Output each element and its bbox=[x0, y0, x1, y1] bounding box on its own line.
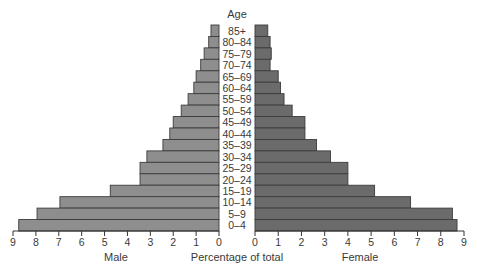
male-bar-40–44 bbox=[170, 128, 219, 139]
female-bar-60–64 bbox=[255, 82, 281, 93]
chart-title: Age bbox=[227, 8, 247, 20]
female-tick-label: 2 bbox=[299, 236, 305, 248]
male-bar-80–84 bbox=[209, 36, 219, 47]
male-tick-label: 9 bbox=[10, 236, 16, 248]
age-label: 45–49 bbox=[222, 116, 251, 128]
female-tick-label: 4 bbox=[345, 236, 351, 248]
male-bar-20–24 bbox=[140, 174, 219, 185]
age-label: 10–14 bbox=[222, 196, 251, 208]
female-bar-15–19 bbox=[255, 185, 375, 196]
female-bar-65–69 bbox=[255, 71, 278, 82]
male-tick-label: 8 bbox=[33, 236, 39, 248]
female-bar-35–39 bbox=[255, 139, 317, 150]
male-tick-label: 7 bbox=[56, 236, 62, 248]
male-tick-label: 0 bbox=[216, 236, 222, 248]
female-bar-25–29 bbox=[255, 162, 348, 173]
age-group-labels: 85+80–8475–7970–7465–6960–6455–5950–5445… bbox=[222, 25, 251, 232]
female-bar-0–4 bbox=[255, 220, 457, 231]
female-axis-label: Female bbox=[342, 251, 379, 263]
age-label: 55–59 bbox=[222, 93, 251, 105]
age-label: 40–44 bbox=[222, 128, 251, 140]
male-tick-label: 2 bbox=[170, 236, 176, 248]
female-bar-50–54 bbox=[255, 105, 292, 116]
female-tick-label: 9 bbox=[461, 236, 467, 248]
male-bars bbox=[19, 25, 219, 231]
male-tick-label: 5 bbox=[102, 236, 108, 248]
female-bar-55–59 bbox=[255, 94, 284, 105]
age-label: 85+ bbox=[228, 25, 246, 37]
female-tick-label: 3 bbox=[322, 236, 328, 248]
age-label: 80–84 bbox=[222, 36, 251, 48]
male-tick-label: 1 bbox=[193, 236, 199, 248]
male-bar-50–54 bbox=[181, 105, 219, 116]
male-bar-35–39 bbox=[163, 139, 219, 150]
male-tick-label: 3 bbox=[147, 236, 153, 248]
male-bar-55–59 bbox=[188, 94, 219, 105]
age-label: 0–4 bbox=[228, 219, 246, 231]
age-label: 5–9 bbox=[228, 208, 246, 220]
female-tick-label: 1 bbox=[275, 236, 281, 248]
female-bar-30–34 bbox=[255, 151, 330, 162]
age-label: 30–34 bbox=[222, 151, 251, 163]
female-tick-label: 7 bbox=[415, 236, 421, 248]
female-bar-75–79 bbox=[255, 48, 271, 59]
male-axis-label: Male bbox=[104, 251, 128, 263]
female-tick-label: 6 bbox=[391, 236, 397, 248]
male-bar-25–29 bbox=[140, 162, 219, 173]
male-bar-75–79 bbox=[204, 48, 219, 59]
male-bar-15–19 bbox=[110, 185, 219, 196]
female-tick-label: 8 bbox=[438, 236, 444, 248]
female-bar-20–24 bbox=[255, 174, 348, 185]
female-bar-45–49 bbox=[255, 117, 305, 128]
x-axis-title: Percentage of total bbox=[191, 251, 283, 263]
female-bar-70–74 bbox=[255, 59, 270, 70]
male-bar-85+ bbox=[211, 25, 219, 36]
male-bar-0–4 bbox=[19, 220, 219, 231]
male-bar-5–9 bbox=[37, 208, 219, 219]
male-bar-70–74 bbox=[201, 59, 219, 70]
age-label: 25–29 bbox=[222, 162, 251, 174]
female-tick-label: 5 bbox=[368, 236, 374, 248]
female-bar-40–44 bbox=[255, 128, 305, 139]
female-tick-label: 0 bbox=[252, 236, 258, 248]
age-label: 70–74 bbox=[222, 59, 251, 71]
female-bar-5–9 bbox=[255, 208, 452, 219]
female-bar-10–14 bbox=[255, 197, 411, 208]
age-label: 60–64 bbox=[222, 82, 251, 94]
male-bar-65–69 bbox=[196, 71, 219, 82]
age-label: 65–69 bbox=[222, 71, 251, 83]
age-label: 35–39 bbox=[222, 139, 251, 151]
female-bar-80–84 bbox=[255, 36, 270, 47]
male-tick-label: 6 bbox=[79, 236, 85, 248]
male-bar-45–49 bbox=[173, 117, 219, 128]
male-bar-60–64 bbox=[194, 82, 219, 93]
age-label: 20–24 bbox=[222, 174, 251, 186]
age-label: 75–79 bbox=[222, 48, 251, 60]
male-bar-10–14 bbox=[60, 197, 219, 208]
female-bars bbox=[255, 25, 457, 231]
female-bar-85+ bbox=[255, 25, 268, 36]
age-label: 15–19 bbox=[222, 185, 251, 197]
female-x-axis: 0123456789 bbox=[252, 231, 467, 248]
population-pyramid-chart: Age 85+80–8475–7970–7465–6960–6455–5950–… bbox=[0, 0, 477, 270]
age-label: 50–54 bbox=[222, 105, 251, 117]
male-bar-30–34 bbox=[147, 151, 219, 162]
male-x-axis: 9876543210 bbox=[10, 231, 222, 248]
male-tick-label: 4 bbox=[125, 236, 131, 248]
